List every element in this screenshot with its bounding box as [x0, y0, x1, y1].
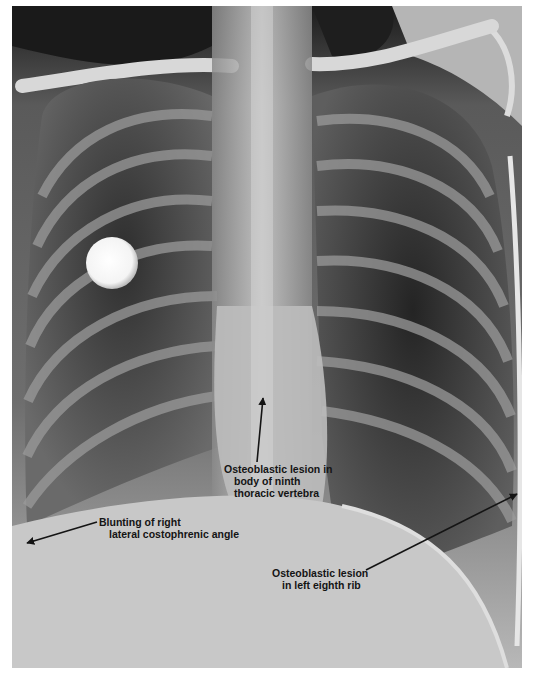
- annotation-vertebra-lesion: Osteoblastic lesion in body of ninth tho…: [224, 463, 333, 499]
- annotation-line: lateral costophrenic angle: [99, 528, 239, 540]
- annotation-line: thoracic vertebra: [224, 487, 333, 499]
- chest-xray-image: [12, 6, 522, 668]
- annotation-line: Osteoblastic lesion in: [224, 463, 333, 475]
- annotation-rib-lesion: Osteoblastic lesion in left eighth rib: [272, 567, 368, 591]
- annotation-line: body of ninth: [224, 475, 333, 487]
- annotation-costophrenic-blunting: Blunting of right lateral costophrenic a…: [99, 516, 239, 540]
- annotation-line: in left eighth rib: [272, 579, 368, 591]
- annotation-line: Blunting of right: [99, 516, 239, 528]
- annotation-line: Osteoblastic lesion: [272, 567, 368, 579]
